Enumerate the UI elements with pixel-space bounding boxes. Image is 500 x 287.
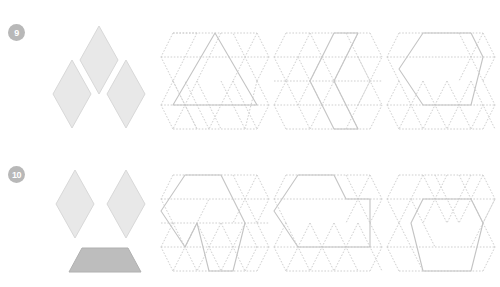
grid-notched-hexagon-outline[interactable]: [273, 162, 383, 282]
problem-number-badge: 10: [8, 166, 25, 183]
problem-9: 9: [0, 18, 500, 148]
problem-number-badge: 9: [8, 24, 25, 41]
problem-10: 10: [0, 160, 500, 287]
pieces-svg-10: [44, 160, 156, 285]
pattern-pieces-9: [44, 18, 156, 143]
grid-zigzag-outline[interactable]: [273, 20, 383, 140]
solid-outline-hexagon: [399, 33, 483, 105]
puzzle-grids-10: [160, 160, 500, 285]
solid-outline-centered-hexagon: [411, 199, 483, 271]
puzzle-grids-9: [160, 18, 500, 143]
grid-hexagon-outline[interactable]: [386, 20, 496, 140]
grid-chevron-outline[interactable]: [160, 162, 270, 282]
pattern-pieces-10: [44, 160, 156, 285]
worksheet-page: 9: [0, 0, 500, 287]
trapezoid-bottom: [69, 248, 141, 272]
rhombus-left: [56, 170, 94, 238]
grid-centered-hexagon-outline[interactable]: [386, 162, 496, 282]
rhombus-right: [107, 170, 145, 238]
grid-triangle-outline[interactable]: [160, 20, 270, 140]
cut-off-header-text: [0, 0, 500, 9]
pieces-svg-9: [44, 18, 156, 143]
solid-outline-notched-hexagon: [274, 175, 370, 247]
solid-outline-triangle: [173, 33, 257, 105]
